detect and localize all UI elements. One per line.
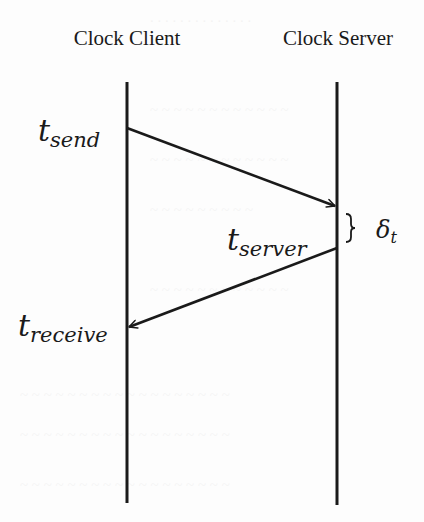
participant-title-client: Clock Client (74, 26, 181, 50)
participant-title-server: Clock Server (283, 26, 393, 50)
label-t-send: tsend (38, 113, 100, 152)
svg-text:~ ~ ~ ~ ~ ~ ~ ~ ~ ~ ~ ~ ~ ~ ~: ~ ~ ~ ~ ~ ~ ~ ~ ~ ~ ~ ~ ~ ~ ~ ~ ~ ~ (20, 477, 230, 493)
sequence-diagram: . . . . . . . . . . . . . . ~ ~ ~ ~ ~ ~ … (0, 0, 424, 522)
diagram-canvas: . . . . . . . . . . . . . . ~ ~ ~ ~ ~ ~ … (0, 0, 424, 522)
label-t-server: tserver (227, 222, 309, 261)
label-t-receive: treceive (18, 308, 108, 347)
label-delta-t: δt (376, 216, 397, 247)
svg-text:~ ~ ~ ~ ~ ~ ~ ~ ~ ~ ~ ~: ~ ~ ~ ~ ~ ~ ~ ~ ~ ~ ~ ~ (150, 282, 289, 298)
svg-text:~ ~ ~ ~ ~ ~ ~ ~ ~ ~ ~ ~ ~ ~ ~: ~ ~ ~ ~ ~ ~ ~ ~ ~ ~ ~ ~ ~ ~ ~ ~ ~ ~ (20, 387, 230, 403)
svg-text:~ ~ ~ ~ ~ ~ ~ ~ ~ ~ ~ ~: ~ ~ ~ ~ ~ ~ ~ ~ ~ ~ ~ ~ (150, 102, 289, 118)
svg-text:. . . . . . . . . . . . . .: . . . . . . . . . . . . . . (150, 9, 251, 25)
svg-text:~ ~ ~ ~ ~ ~ ~ ~ ~: ~ ~ ~ ~ ~ ~ ~ ~ ~ (150, 202, 253, 218)
svg-text:~ ~ ~ ~ ~ ~ ~ ~ ~ ~ ~ ~: ~ ~ ~ ~ ~ ~ ~ ~ ~ ~ ~ ~ (150, 152, 289, 168)
brace-icon (346, 214, 355, 242)
svg-text:~ ~ ~ ~ ~ ~ ~ ~ ~ ~ ~ ~ ~ ~ ~: ~ ~ ~ ~ ~ ~ ~ ~ ~ ~ ~ ~ ~ ~ ~ ~ ~ ~ (20, 427, 230, 443)
